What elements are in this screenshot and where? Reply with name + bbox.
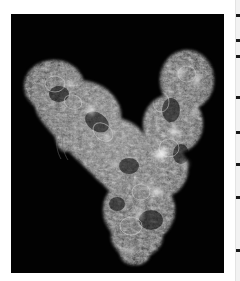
edge-tick [236, 39, 240, 42]
edge-tick [236, 55, 240, 58]
micrograph-canvas[interactable] [11, 14, 224, 273]
edge-tick [236, 249, 240, 252]
document-edge-strip[interactable] [235, 0, 240, 281]
micrograph-viewer-panel[interactable] [11, 14, 224, 273]
edge-tick [236, 163, 240, 166]
edge-tick [236, 196, 240, 199]
edge-tick [236, 14, 240, 17]
edge-tick [236, 96, 240, 99]
edge-tick [236, 131, 240, 134]
micrograph-image [11, 14, 224, 273]
viewer-root: Fluorescence micrograph V-shaped chevron… [0, 0, 240, 281]
